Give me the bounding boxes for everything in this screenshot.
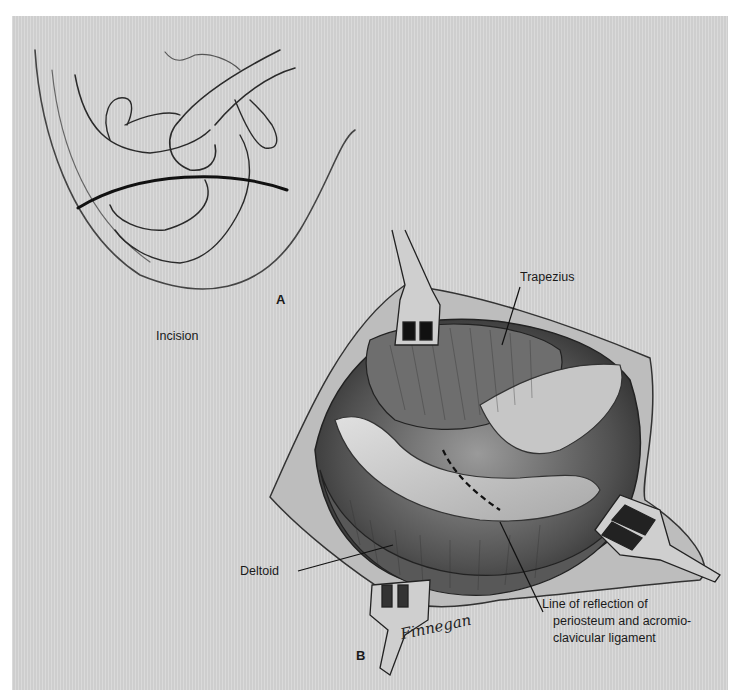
retractor-top [392,230,440,345]
panel-letter-a: A [276,292,285,307]
label-deltoid: Deltoid [240,564,279,579]
label-reflection-line-2: periosteum and acromio- [553,614,691,629]
panel-letter-b: B [356,648,365,663]
label-reflection-line-1: Line of reflection of [542,597,648,612]
panel-b-drawing [270,230,720,675]
surgical-illustration [0,0,741,700]
panel-a-drawing [35,50,355,289]
label-incision: Incision [156,329,198,344]
label-trapezius: Trapezius [520,270,574,285]
label-reflection-line-3: clavicular ligament [553,631,656,646]
